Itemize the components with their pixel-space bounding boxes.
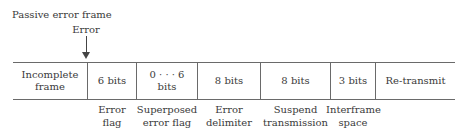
label-error-flag: Error flag (88, 103, 136, 129)
diagram-title: Passive error frame (12, 9, 142, 21)
field-error-delimiter: 8 bits (198, 62, 260, 99)
field-retransmit: Re-transmit (376, 62, 455, 99)
label-error-delimiter: Error delimiter (198, 103, 260, 129)
field-suspend-transmission: 8 bits (261, 62, 330, 99)
arrow-head (82, 52, 90, 59)
field-error-flag: 6 bits (88, 62, 136, 99)
field-incomplete-frame: Incomplete frame (13, 62, 87, 99)
field-interframe-space: 3 bits (331, 62, 375, 99)
error-marker-label: Error (66, 24, 106, 36)
frame-bottom-border (13, 99, 455, 100)
label-suspend-transmission: Suspend transmission (258, 103, 333, 129)
label-superposed-error-flag: Superposed error flag (132, 103, 202, 129)
field-superposed-error-flag: 0 · · · 6 bits (137, 62, 197, 99)
label-interframe-space: Interframe space (326, 103, 380, 129)
